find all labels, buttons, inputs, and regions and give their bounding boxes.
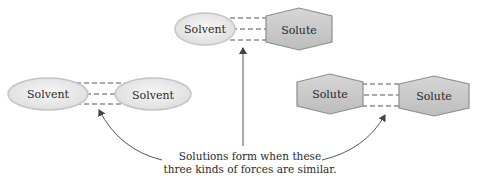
force-dashes (362, 84, 402, 106)
arrow-left-icon (99, 110, 162, 160)
caption: Solutions form when these three kinds of… (163, 150, 336, 176)
label-solute: Solute (312, 88, 348, 101)
caption-line-1: Solutions form when these (163, 150, 336, 163)
label-solvent: Solvent (184, 23, 226, 36)
label-solute: Solute (281, 24, 317, 37)
label-solvent: Solvent (132, 89, 174, 102)
caption-line-2: three kinds of forces are similar. (163, 163, 336, 176)
label-solute: Solute (416, 90, 452, 103)
label-solvent: Solvent (27, 88, 69, 101)
diagram-canvas: Solvent Solute Solvent Solvent Solute So… (0, 0, 477, 186)
